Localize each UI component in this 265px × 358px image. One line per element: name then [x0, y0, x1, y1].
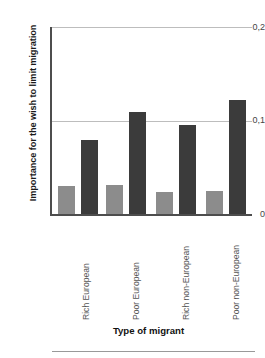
bar-light-3 [206, 191, 223, 214]
bar-light-2 [156, 192, 173, 214]
x-axis-title: Type of migrant [51, 324, 246, 337]
bar-group-poor-non-european [206, 27, 246, 214]
y-axis-line [50, 27, 52, 214]
bar-group-poor-european [106, 27, 146, 214]
x-axis-title-text: Type of migrant [108, 325, 189, 336]
bar-light-0 [58, 186, 75, 214]
footer-rule [52, 351, 255, 352]
plot-area [50, 27, 252, 214]
x-axis-bracket: Type of migrant [51, 330, 246, 342]
x-category-label-rich-non-european: Rich non-European [180, 220, 193, 320]
bar-group-rich-non-european [156, 27, 196, 214]
bar-chart-figure: Importance for the wish to limit migrati… [0, 0, 265, 358]
bar-light-1 [106, 185, 123, 214]
bar-group-rich-european [58, 27, 98, 214]
x-axis-line [50, 214, 252, 216]
x-category-label-poor-non-european: Poor non-European [230, 220, 243, 320]
x-category-label-rich-european: Rich European [80, 220, 93, 320]
bar-dark-0 [81, 140, 98, 214]
y-axis-title: Importance for the wish to limit migrati… [25, 8, 41, 218]
bar-dark-1 [129, 112, 146, 214]
bar-dark-3 [229, 100, 246, 214]
x-category-label-poor-european: Poor European [130, 220, 143, 320]
bar-dark-2 [179, 125, 196, 214]
